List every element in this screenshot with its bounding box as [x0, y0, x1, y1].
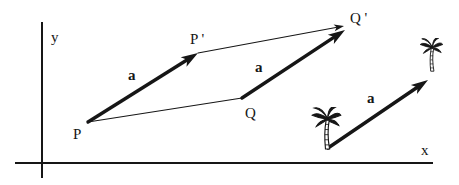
- vector-p-to-p-prime: [88, 58, 190, 122]
- point-label-q-prime: Q ': [350, 10, 368, 26]
- vector-p-to-p-prime-arrowhead-icon: [181, 53, 198, 67]
- palm-tree-icon-upper: [420, 38, 443, 71]
- point-label-p: P: [73, 126, 81, 142]
- figure: yxPP 'QQ 'aaa: [0, 0, 459, 185]
- vector-a-label-2: a: [255, 59, 263, 75]
- x-axis-label: x: [421, 142, 429, 158]
- vector-a-label-1: a: [128, 67, 136, 83]
- vector-a-free-arrowhead-icon: [411, 80, 428, 94]
- point-label-p-prime: P ': [190, 31, 205, 47]
- vector-a-label-3: a: [367, 90, 375, 106]
- y-axis-label: y: [51, 29, 59, 45]
- diagram-content: yxPP 'QQ 'aaa: [15, 10, 443, 178]
- vector-q-to-q-prime-arrowhead-icon: [328, 30, 345, 44]
- segment-p-to-q: [88, 98, 242, 122]
- vector-diagram: yxPP 'QQ 'aaa: [0, 0, 459, 185]
- point-label-q: Q: [245, 105, 256, 121]
